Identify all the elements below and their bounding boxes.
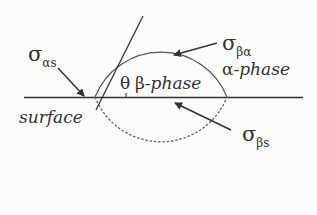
dashed-circle-continuation (95, 97, 227, 142)
label-beta-phase: β-phase (135, 75, 201, 92)
subscript: αs (42, 56, 56, 70)
arrow-sigma-beta-alpha (174, 43, 217, 55)
tangent-line (96, 16, 143, 110)
theta-symbol: θ (120, 73, 130, 93)
sigma-symbol: σ (28, 42, 42, 66)
arrow-sigma-beta-s (175, 103, 231, 130)
subscript: βs (256, 136, 269, 150)
beta-prefix: β- (135, 73, 151, 93)
beta-phase-text: phase (151, 73, 202, 93)
label-sigma-beta-alpha: σβα (222, 33, 251, 58)
subscript: βα (236, 45, 251, 59)
alpha-prefix: α- (222, 59, 239, 79)
label-sigma-beta-s: σβs (242, 124, 269, 149)
arrow-sigma-alpha-s (58, 68, 84, 96)
label-theta: θ (120, 75, 130, 92)
sigma-symbol: σ (242, 122, 256, 146)
label-sigma-alpha-s: σαs (28, 44, 57, 69)
label-surface: surface (19, 109, 83, 126)
label-alpha-phase: α-phase (222, 61, 290, 78)
wetting-angle-diagram: σαs σβα α-phase θ β-phase surface σβs (0, 0, 317, 215)
sigma-symbol: σ (222, 31, 236, 55)
alpha-phase-text: phase (239, 59, 290, 79)
